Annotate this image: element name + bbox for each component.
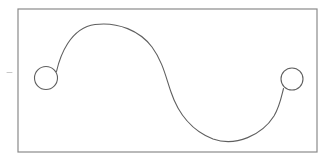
line-drawing-figure: S-curve diagram with two circular nodes … <box>0 0 334 159</box>
